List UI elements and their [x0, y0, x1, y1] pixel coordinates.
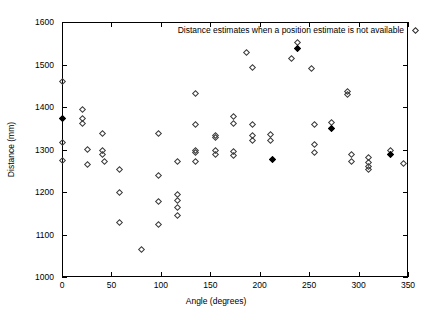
data-point: [328, 125, 335, 132]
y-axis-tick-label: 1400: [35, 102, 54, 112]
legend-label: Distance estimates when a position estim…: [178, 25, 404, 35]
data-point: [308, 65, 315, 72]
y-axis-tick: [403, 192, 408, 193]
y-axis-tick: [62, 235, 67, 236]
y-axis-tick: [403, 277, 408, 278]
x-axis-tick: [408, 272, 409, 277]
x-axis-tick: [309, 272, 310, 277]
data-point: [155, 197, 162, 204]
y-axis-tick: [62, 22, 67, 23]
y-axis-tick: [403, 235, 408, 236]
data-point: [400, 160, 407, 167]
y-axis-tick: [403, 22, 408, 23]
x-axis-tick: [161, 22, 162, 27]
x-axis-tick-label: 200: [253, 280, 267, 290]
data-point: [311, 141, 318, 148]
data-point: [100, 158, 107, 165]
data-point: [230, 112, 237, 119]
data-point: [365, 166, 372, 173]
data-point: [116, 166, 123, 173]
data-point: [84, 161, 91, 168]
data-point: [174, 204, 181, 211]
x-axis-tick-label: 0: [60, 280, 65, 290]
y-axis-tick: [403, 150, 408, 151]
data-point: [98, 129, 105, 136]
data-point: [59, 139, 66, 146]
x-axis-tick: [359, 272, 360, 277]
y-axis-tick-label: 1500: [35, 60, 54, 70]
legend: Distance estimates when a position estim…: [178, 25, 418, 35]
data-point: [116, 219, 123, 226]
x-axis-label: Angle (degrees): [0, 296, 432, 306]
data-point: [267, 137, 274, 144]
x-axis-tick-label: 350: [401, 280, 415, 290]
data-point: [174, 197, 181, 204]
y-axis-tick-label: 1100: [36, 230, 54, 240]
data-point: [155, 129, 162, 136]
data-point: [311, 149, 318, 156]
data-point: [294, 44, 301, 51]
data-point: [249, 137, 256, 144]
x-axis-tick: [111, 22, 112, 27]
x-axis-tick: [260, 272, 261, 277]
data-point: [79, 106, 86, 113]
y-axis-label: Distance (mm): [4, 22, 18, 277]
y-axis-tick: [62, 65, 67, 66]
plot-area: [62, 22, 408, 277]
data-point: [138, 245, 145, 252]
scatter-plot-figure: 0501001502002503003501000110012001300140…: [0, 0, 432, 320]
data-point: [79, 120, 86, 127]
y-axis-tick: [403, 65, 408, 66]
y-axis-tick: [62, 192, 67, 193]
y-axis-tick-label: 1600: [35, 17, 54, 27]
data-point: [174, 212, 181, 219]
y-axis-tick-label: 1300: [35, 145, 54, 155]
x-axis-tick-label: 250: [302, 280, 316, 290]
data-point: [387, 151, 394, 158]
data-point: [249, 64, 256, 71]
data-point: [288, 55, 295, 62]
data-point: [59, 115, 66, 122]
y-axis-tick: [62, 277, 67, 278]
y-axis-tick: [62, 150, 67, 151]
x-axis-tick: [161, 272, 162, 277]
y-axis-tick-label: 1000: [35, 272, 54, 282]
data-point: [192, 121, 199, 128]
data-point: [344, 91, 351, 98]
data-point: [192, 158, 199, 165]
x-axis-tick-label: 300: [351, 280, 365, 290]
data-point: [192, 90, 199, 97]
data-point: [249, 121, 256, 128]
y-axis-tick: [62, 107, 67, 108]
data-point: [174, 158, 181, 165]
data-point: [269, 156, 276, 163]
x-axis-tick-label: 150: [203, 280, 217, 290]
y-axis-tick-label: 1200: [35, 187, 54, 197]
data-point: [311, 121, 318, 128]
data-point: [155, 172, 162, 179]
data-points-layer: [63, 23, 407, 276]
data-point: [230, 120, 237, 127]
data-point: [84, 146, 91, 153]
x-axis-tick-label: 100: [154, 280, 168, 290]
x-axis-tick-label: 50: [107, 280, 116, 290]
data-point: [59, 157, 66, 164]
data-point: [116, 189, 123, 196]
data-point: [59, 78, 66, 85]
x-axis-tick: [111, 272, 112, 277]
y-axis-tick: [403, 107, 408, 108]
diamond-open-marker-icon: [412, 26, 419, 33]
data-point: [348, 158, 355, 165]
data-point: [155, 221, 162, 228]
data-point: [212, 151, 219, 158]
x-axis-tick: [210, 272, 211, 277]
data-point: [230, 152, 237, 159]
data-point: [243, 49, 250, 56]
